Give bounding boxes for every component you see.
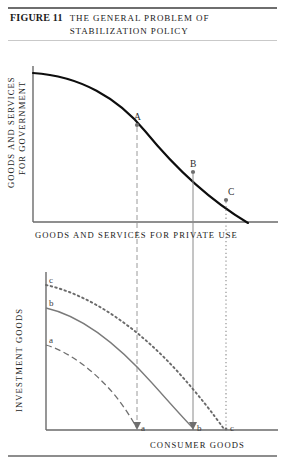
tick-c-marker [225, 428, 228, 431]
lower-curve-a [46, 345, 137, 428]
lower-tick-b-label: b [197, 423, 202, 433]
upper-y-axis-label-line-1: GOODS AND SERVICES [6, 76, 16, 188]
point-c-marker [224, 198, 228, 202]
point-c-label: C [228, 187, 234, 197]
upper-x-axis-label: GOODS AND SERVICES FOR PRIVATE USE [35, 230, 238, 240]
point-b-marker [191, 170, 195, 174]
lower-tick-c-label: c [230, 423, 234, 433]
figure-charts-svg: A B C GOODS AND SERVICES FOR GOVERNMENT … [0, 0, 285, 462]
point-a-label: A [134, 112, 141, 122]
lower-curve-a-origin-label: a [49, 335, 53, 345]
lower-chart: a b c a b c INVESTMENT GOODS CONSUMER GO… [14, 272, 278, 450]
lower-curve-b [46, 308, 193, 428]
lower-curve-c-origin-label: c [49, 275, 53, 285]
point-a-marker [135, 123, 139, 127]
upper-chart: A B C GOODS AND SERVICES FOR GOVERNMENT … [6, 66, 278, 430]
arrowhead-a-icon [133, 422, 141, 430]
lower-x-axis-label: CONSUMER GOODS [150, 440, 245, 450]
upper-frontier-curve [33, 73, 248, 223]
lower-curve-b-origin-label: b [49, 298, 54, 308]
point-b-label: B [190, 159, 196, 169]
lower-tick-a-label: a [141, 423, 145, 433]
figure-root: FIGURE 11THE GENERAL PROBLEM OFSTABILIZA… [0, 0, 285, 462]
upper-y-axis-label-line-2: FOR GOVERNMENT [17, 81, 27, 175]
lower-y-axis-label: INVESTMENT GOODS [14, 308, 24, 412]
